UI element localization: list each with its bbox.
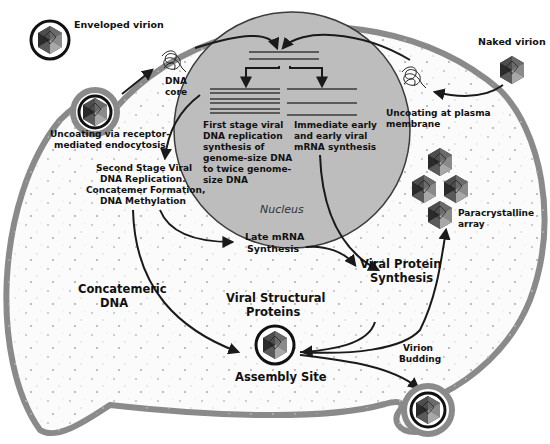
immediate-early-label: Immediate early and early viral mRNA syn… bbox=[294, 120, 380, 152]
viral-replication-diagram: Enveloped virion Naked virion Nucleus Fi… bbox=[0, 0, 550, 444]
naked-virion-icon bbox=[500, 56, 524, 84]
virion-budding-label: Virion Budding bbox=[399, 343, 441, 364]
enveloped-virion: Enveloped virion bbox=[31, 19, 164, 59]
nucleus-label: Nucleus bbox=[260, 203, 304, 216]
viral-protein-synthesis-label: Viral Protein Synthesis bbox=[360, 257, 445, 285]
late-mrna-label: Late mRNA Synthesis bbox=[245, 231, 308, 254]
enveloped-virion-label: Enveloped virion bbox=[74, 19, 164, 30]
uncoating-endocytosis-label: Uncoating via receptor- mediated endocyt… bbox=[50, 129, 173, 150]
assembly-site-label: Assembly Site bbox=[235, 370, 327, 384]
nucleus: Nucleus First stage viral DNA replicatio… bbox=[174, 12, 410, 248]
naked-virion-label: Naked virion bbox=[478, 36, 546, 47]
endocytosis-pocket bbox=[73, 90, 117, 134]
dna-core-label: DNA core bbox=[165, 76, 190, 97]
